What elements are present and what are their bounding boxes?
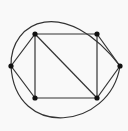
straight-edges <box>11 34 120 98</box>
node-top-right <box>94 31 99 36</box>
edge-top-right-right <box>97 34 120 66</box>
node-top-left <box>32 31 37 36</box>
edge-left-top-left <box>11 34 35 66</box>
node-left <box>8 63 13 68</box>
edge-top-left-bottom-right <box>35 34 97 98</box>
curved-edges <box>11 22 120 118</box>
node-bottom-right <box>94 95 99 100</box>
edge-left-bottom-left <box>11 66 35 98</box>
node-bottom-left <box>32 95 37 100</box>
graph-diagram <box>0 0 128 131</box>
node-right <box>117 63 122 68</box>
arc-edge-right-left <box>11 66 120 118</box>
